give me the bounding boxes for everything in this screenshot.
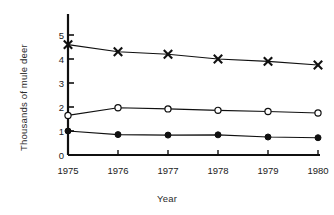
filled-circle-marker xyxy=(165,132,171,138)
series-x xyxy=(64,40,322,69)
series-open-circle xyxy=(65,105,321,119)
data-point xyxy=(65,128,71,134)
data-point xyxy=(165,106,171,112)
data-point xyxy=(265,108,271,114)
series-line xyxy=(68,45,318,65)
filled-circle-marker xyxy=(315,135,321,141)
open-circle-marker xyxy=(165,106,171,112)
series-line xyxy=(68,108,318,116)
filled-circle-marker xyxy=(215,132,221,138)
chart-figure: Thousands of mule deer Year 5 4 3 2 1 0 … xyxy=(0,0,334,215)
plot-area xyxy=(0,0,334,215)
filled-circle-marker xyxy=(265,134,271,140)
data-point xyxy=(315,110,321,116)
data-point xyxy=(115,105,121,111)
filled-circle-marker xyxy=(115,132,121,138)
data-point xyxy=(165,132,171,138)
open-circle-marker xyxy=(315,110,321,116)
data-point xyxy=(215,132,221,138)
series-line xyxy=(68,131,318,138)
data-series-group xyxy=(64,40,322,140)
open-circle-marker xyxy=(65,112,71,118)
open-circle-marker xyxy=(115,105,121,111)
open-circle-marker xyxy=(265,108,271,114)
data-point xyxy=(315,135,321,141)
filled-circle-marker xyxy=(65,128,71,134)
data-point xyxy=(115,132,121,138)
data-point xyxy=(215,107,221,113)
data-point xyxy=(265,134,271,140)
series-filled-circle xyxy=(65,128,321,141)
data-point xyxy=(65,112,71,118)
open-circle-marker xyxy=(215,107,221,113)
